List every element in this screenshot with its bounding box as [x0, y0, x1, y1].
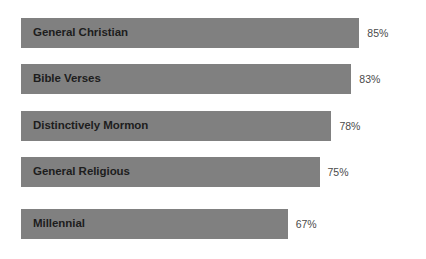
bar-row: Millennial 67%	[21, 209, 317, 239]
bar-value: 75%	[328, 167, 349, 178]
bar-value: 67%	[296, 219, 317, 230]
bar-value: 85%	[367, 28, 388, 39]
bar-row: General Christian 85%	[21, 18, 388, 48]
bar-value: 78%	[339, 121, 360, 132]
bar-label: Distinctively Mormon	[33, 120, 148, 132]
bar-row: Bible Verses 83%	[21, 64, 380, 94]
bar-distinctively-mormon: Distinctively Mormon	[21, 111, 331, 141]
bar-label: General Christian	[33, 27, 128, 39]
bar-millennial: Millennial	[21, 209, 288, 239]
bar-label: Bible Verses	[33, 73, 101, 85]
bar-general-religious: General Religious	[21, 157, 320, 187]
bar-row: General Religious 75%	[21, 157, 349, 187]
bar-bible-verses: Bible Verses	[21, 64, 351, 94]
bar-row: Distinctively Mormon 78%	[21, 111, 360, 141]
bar-value: 83%	[359, 74, 380, 85]
bar-label: General Religious	[33, 166, 130, 178]
bar-label: Millennial	[33, 218, 85, 230]
bar-general-christian: General Christian	[21, 18, 359, 48]
horizontal-bar-chart: General Christian 85% Bible Verses 83% D…	[0, 0, 426, 259]
